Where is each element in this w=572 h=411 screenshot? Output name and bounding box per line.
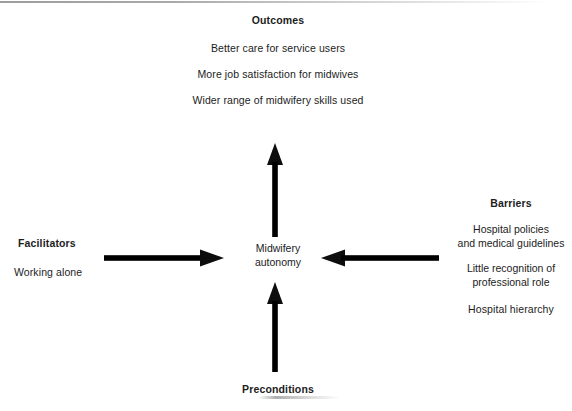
arrow-barriers-to-center <box>321 249 439 267</box>
center-node-line-2: autonomy <box>255 255 301 269</box>
preconditions-heading: Preconditions <box>242 383 314 396</box>
barriers-item-3: Hospital hierarchy <box>468 303 554 316</box>
barriers-item-2: Little recognition of professional role <box>467 261 555 289</box>
arrow-preconditions-to-center <box>266 282 284 372</box>
arrow-up-to-outcomes <box>266 143 284 237</box>
center-node-line-1: Midwifery <box>255 241 301 255</box>
center-node: Midwifery autonomy <box>255 241 301 269</box>
arrow-facilitators-to-center <box>104 249 224 267</box>
outcomes-heading: Outcomes <box>252 14 305 27</box>
barriers-item-1-line-1: Hospital policies <box>458 222 565 236</box>
barriers-item-2-line-1: Little recognition of <box>467 261 555 275</box>
barriers-heading: Barriers <box>490 197 531 210</box>
facilitators-heading: Facilitators <box>18 237 76 250</box>
outcomes-item-1: Better care for service users <box>211 42 345 55</box>
diagram-canvas: Outcomes Better care for service users M… <box>0 0 572 411</box>
bottom-edge-artifact <box>258 396 340 399</box>
facilitators-item-1: Working alone <box>14 266 82 279</box>
barriers-item-2-line-2: professional role <box>467 275 555 289</box>
barriers-item-1: Hospital policies and medical guidelines <box>458 222 565 250</box>
outcomes-item-3: Wider range of midwifery skills used <box>192 94 363 107</box>
outcomes-item-2: More job satisfaction for midwives <box>198 68 359 81</box>
barriers-item-1-line-2: and medical guidelines <box>458 236 565 250</box>
top-edge-artifact <box>0 1 572 3</box>
